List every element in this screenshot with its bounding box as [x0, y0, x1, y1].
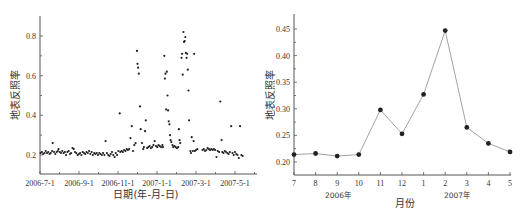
y-tick-label: 0.45: [276, 25, 290, 34]
scatter-point: [137, 67, 139, 69]
scatter-point: [228, 153, 230, 155]
scatter-point: [41, 151, 43, 153]
x-tick-label: 9: [335, 179, 339, 188]
scatter-point: [47, 151, 49, 153]
scatter-point: [53, 151, 55, 153]
scatter-point: [219, 100, 221, 102]
x-tick-label: 3: [465, 179, 469, 188]
scatter-point: [161, 144, 163, 146]
scatter-point: [142, 148, 144, 150]
scatter-point: [139, 105, 141, 107]
scatter-point: [152, 144, 154, 146]
scatter-point: [186, 53, 188, 55]
scatter-point: [119, 112, 121, 114]
scatter-point: [50, 152, 52, 154]
scatter-point: [196, 148, 198, 150]
scatter-point: [168, 123, 170, 125]
scatter-point: [203, 148, 205, 150]
figure-canvas: 0.20.40.60.8 2006-7-12006-9-12006-11-120…: [0, 0, 526, 220]
scatter-point: [145, 119, 147, 121]
scatter-point: [57, 150, 59, 152]
scatter-point: [151, 146, 153, 148]
scatter-point: [171, 144, 173, 146]
right-x-ticks: 78910111212345: [292, 172, 512, 188]
scatter-point: [92, 154, 94, 156]
y-tick-label: 0.4: [26, 111, 36, 120]
scatter-point: [187, 89, 189, 91]
scatter-point: [234, 151, 236, 153]
scatter-point: [170, 139, 172, 141]
scatter-point: [91, 151, 93, 153]
scatter-point: [52, 142, 54, 144]
line-marker: [313, 151, 318, 156]
scatter-point: [57, 148, 59, 150]
scatter-point: [164, 78, 166, 80]
albedo-monthly-line: [294, 31, 510, 157]
x-tick-label: 10: [355, 179, 363, 188]
x-tick-label: 5: [508, 179, 512, 188]
scatter-point: [156, 146, 158, 148]
scatter-point: [239, 125, 241, 127]
scatter-point: [61, 150, 63, 152]
scatter-point: [190, 152, 192, 154]
scatter-point: [45, 150, 47, 152]
scatter-point: [186, 57, 188, 59]
scatter-point: [236, 154, 238, 156]
right-y-axis-title: 地表反照率: [264, 70, 276, 120]
y-tick-label: 0.25: [276, 131, 290, 140]
x-tick-label: 2007-1-1: [142, 179, 171, 188]
scatter-point: [112, 154, 114, 156]
right-line-chart: 0.200.250.300.350.400.45 78910111212345 …: [264, 14, 512, 209]
scatter-point: [122, 151, 124, 153]
scatter-point: [105, 140, 107, 142]
left-y-axis-title: 地表反照率: [9, 70, 21, 120]
scatter-point: [188, 119, 190, 121]
scatter-point: [230, 125, 232, 127]
scatter-point: [143, 146, 145, 148]
scatter-point: [43, 152, 45, 154]
scatter-point: [154, 140, 156, 142]
scatter-point: [103, 154, 105, 156]
y-tick-label: 0.2: [26, 151, 36, 160]
scatter-point: [102, 152, 104, 154]
x-tick-label: 12: [398, 179, 406, 188]
scatter-point: [64, 151, 66, 153]
scatter-point: [189, 150, 191, 152]
scatter-point: [131, 125, 133, 127]
left-x-axis-title: 日期(年-月-日): [113, 188, 178, 200]
year-label-2006: 2006年: [325, 190, 352, 200]
scatter-point: [182, 31, 184, 33]
y-tick-label: 0.6: [26, 72, 36, 81]
scatter-point: [73, 148, 75, 150]
scatter-point: [233, 154, 235, 156]
scatter-point: [106, 152, 108, 154]
scatter-point: [114, 156, 116, 158]
y-tick-label: 0.20: [276, 158, 290, 167]
scatter-point: [238, 157, 240, 159]
line-marker: [486, 141, 491, 146]
scatter-point: [170, 141, 172, 143]
scatter-point: [70, 152, 72, 154]
scatter-point: [214, 149, 216, 151]
x-tick-label: 1: [422, 179, 426, 188]
scatter-point: [165, 108, 167, 110]
scatter-point: [149, 145, 151, 147]
scatter-point: [111, 151, 113, 153]
scatter-point: [166, 94, 168, 96]
scatter-point: [136, 63, 138, 65]
x-tick-label: 2: [443, 179, 447, 188]
scatter-point: [75, 152, 77, 154]
scatter-point: [84, 153, 86, 155]
scatter-point: [51, 150, 53, 152]
line-marker: [356, 152, 361, 157]
scatter-point: [179, 139, 181, 141]
scatter-point: [222, 152, 224, 154]
scatter-point: [60, 152, 62, 154]
line-marker: [335, 154, 340, 159]
line-marker: [292, 152, 297, 157]
line-marker: [508, 150, 513, 155]
scatter-point: [89, 153, 91, 155]
scatter-point: [129, 137, 131, 139]
scatter-point: [184, 36, 186, 38]
x-tick-label: 11: [377, 179, 385, 188]
